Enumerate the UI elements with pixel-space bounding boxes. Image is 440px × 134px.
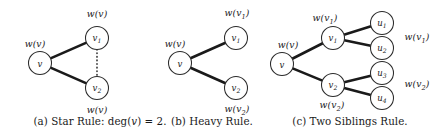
node-label-panel-b-v2: v2 [232, 83, 241, 94]
panel-c-weight-u34: w(v2) [405, 79, 430, 91]
graph-drawing-layer [0, 0, 440, 134]
edge-v1-u1 [344, 26, 371, 34]
edge-v-v1 [191, 43, 226, 59]
panel-b-weight-v: w(v) [165, 39, 186, 48]
node-label-panel-c-v1: v1 [329, 33, 338, 44]
node-label-panel-a-v1: v1 [93, 33, 102, 44]
node-label-panel-c-u3: u3 [377, 68, 387, 79]
edge-v-v2 [51, 68, 87, 84]
panel-b-weight-v1: w(v1) [225, 8, 250, 20]
node-label-panel-c-v2: v2 [329, 80, 338, 91]
caption-panel-b: (b) Heavy Rule. [171, 116, 253, 126]
panel-a-weight-v2-below: w(v) [87, 105, 108, 114]
edge-v-v1 [51, 43, 87, 59]
caption-panel-a: (a) Star Rule: deg(v) = 2. [34, 116, 167, 126]
edge-v-v2 [191, 68, 226, 84]
caption-panel-c: (c) Two Siblings Rule. [292, 116, 407, 126]
node-label-panel-b-v1: v1 [232, 33, 241, 44]
edge-v-v2 [293, 68, 323, 80]
node-label-panel-b-v: v [178, 59, 183, 68]
figure-root: vv1v2w(v)w(v)w(v)vv1v2w(v)w(v1)w(v2)vv1v… [0, 0, 440, 134]
panel-a-weight-v1-above: w(v) [87, 9, 108, 18]
node-label-panel-a-v: v [38, 59, 43, 68]
panel-c-weight-u12: w(v1) [405, 32, 430, 44]
edge-v2-u4 [344, 88, 371, 95]
node-label-panel-c-v: v [280, 60, 285, 69]
node-label-panel-c-u1: u1 [377, 18, 387, 29]
node-label-panel-a-v2: v2 [93, 83, 102, 94]
panel-c-weight-v2-below: w(v2) [320, 100, 345, 112]
node-label-panel-c-u4: u4 [377, 93, 387, 104]
panel-c-weight-v1-above: w(v1) [313, 13, 338, 25]
edge-v2-u3 [344, 76, 371, 83]
node-label-panel-c-u2: u2 [377, 43, 387, 54]
edge-v1-u2 [344, 40, 370, 45]
panel-c-weight-v: w(v) [278, 40, 299, 49]
panel-a-weight-v: w(v) [25, 39, 46, 48]
